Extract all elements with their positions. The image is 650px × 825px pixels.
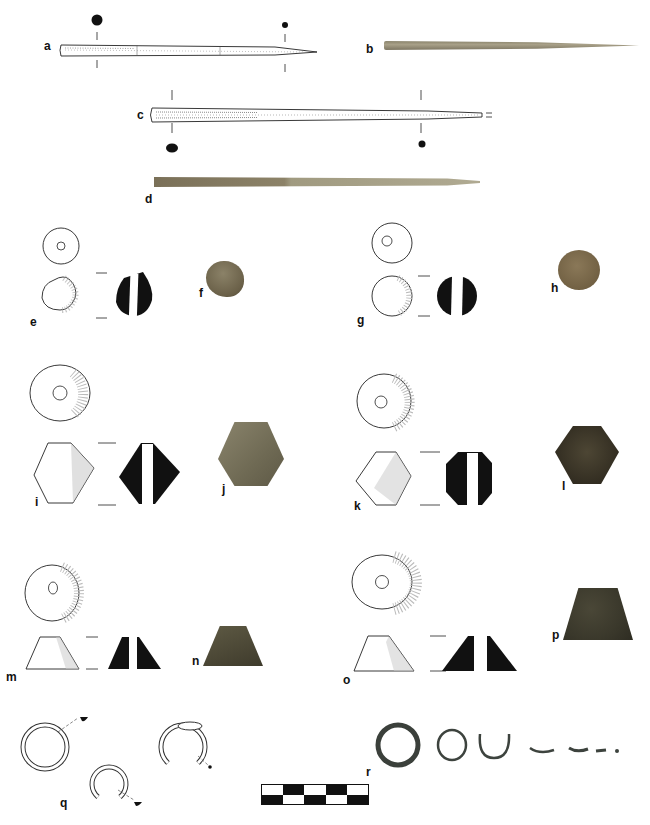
ring-r3 — [480, 734, 509, 758]
scale-cell — [262, 785, 283, 795]
label-a: a — [44, 40, 51, 52]
label-c: c — [137, 109, 144, 121]
label-e: e — [30, 316, 37, 328]
whorl-drawing-i — [28, 365, 228, 515]
scale-cell — [304, 785, 325, 795]
ring-r2 — [438, 730, 466, 760]
whorl-drawing-g — [370, 228, 510, 328]
whorl-photo-n — [203, 626, 263, 666]
ring-fragment-2 — [569, 748, 588, 751]
whorl-photo-l — [555, 426, 619, 484]
ring-q2 — [161, 722, 212, 769]
ring-photos-r — [374, 722, 634, 772]
ring-q3 — [92, 767, 142, 806]
ring-fragment-4 — [615, 749, 619, 753]
whorl-drawing-o — [352, 557, 552, 687]
pin-photo-b — [384, 41, 639, 50]
label-h: h — [551, 282, 558, 294]
label-m: m — [6, 671, 17, 683]
pin-drawing-c — [148, 90, 508, 160]
label-l: l — [562, 480, 565, 492]
label-d: d — [145, 193, 152, 205]
ring-drawings-q — [20, 710, 250, 820]
label-j: j — [222, 483, 225, 495]
scale-cell — [304, 795, 325, 805]
label-p: p — [552, 629, 559, 641]
scale-cell — [347, 795, 368, 805]
whorl-photo-f — [206, 261, 244, 297]
ring-fragment-1 — [530, 748, 554, 752]
pin-photo-d — [154, 177, 480, 187]
whorl-photo-h — [558, 250, 600, 290]
label-k: k — [354, 500, 361, 512]
label-n: n — [192, 655, 199, 667]
scale-cell — [283, 795, 304, 805]
scale-cell — [326, 795, 347, 805]
ring-fragment-3 — [596, 750, 606, 751]
scale-bar — [261, 784, 369, 805]
ring-r1 — [378, 725, 418, 765]
scale-cell — [262, 795, 283, 805]
scale-cell — [283, 785, 304, 795]
whorl-drawing-k — [354, 378, 534, 528]
label-g: g — [357, 314, 364, 326]
pin-drawing-a — [55, 10, 355, 80]
ring-q1 — [23, 717, 88, 769]
label-f: f — [199, 287, 203, 299]
label-i: i — [35, 496, 38, 508]
scale-cell — [347, 785, 368, 795]
scale-cell — [326, 785, 347, 795]
label-o: o — [343, 674, 350, 686]
label-r: r — [366, 766, 371, 778]
label-b: b — [366, 43, 373, 55]
label-q: q — [60, 797, 67, 809]
whorl-drawing-e — [40, 228, 180, 328]
whorl-photo-p — [563, 588, 633, 640]
whorl-drawing-m — [24, 563, 194, 683]
